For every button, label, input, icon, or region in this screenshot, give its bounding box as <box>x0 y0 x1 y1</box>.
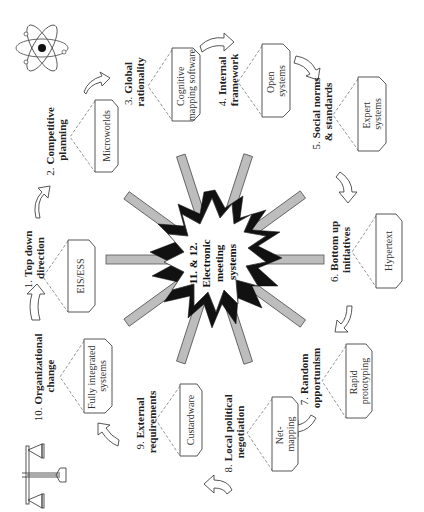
box-text-1: Cognitive <box>175 66 186 106</box>
box-text-2: systems <box>276 65 287 97</box>
label-line-2: negotiation <box>234 406 246 459</box>
node-number: 4. <box>216 98 228 107</box>
box-text-1: Open <box>265 71 276 93</box>
svg-text:6.Bottom up initiatives: 6.Bottom up initiatives <box>328 218 352 282</box>
svg-text:1.Top down direction: 1.Top down direction <box>22 228 46 288</box>
box-text-2: systems <box>97 360 108 392</box>
label-line-1: Global <box>122 62 134 94</box>
node-6-bottom-up-initiatives: Hypertext 6.Bottom up initiatives <box>328 214 402 288</box>
box-text-2: prototyping <box>359 358 370 405</box>
node-4-internal-framework: Open systems 4.Internal framework <box>216 44 290 117</box>
center-line-4: systems <box>226 243 238 280</box>
svg-text:9.External requirements: 9.External requirements <box>134 390 158 453</box>
box-text-1: Rapid <box>348 370 359 394</box>
node-number: 6. <box>328 273 340 282</box>
svg-text:8.Local political negoti: 8.Local political negotiation <box>222 392 246 473</box>
diagram-canvas: 11. & 12. Electronic meeting systems <box>0 0 424 512</box>
svg-text:5.Social norms & standar: 5.Social norms & standards <box>310 75 334 150</box>
node-number: 7. <box>298 397 310 406</box>
node-3-global-rationality: Cognitive mapping software 3.Global rati… <box>122 48 200 121</box>
box-text: EIS/ESS <box>75 258 86 293</box>
label-line-2: initiatives <box>340 226 352 273</box>
svg-text:11. & 12. Electronic: 11. & 12. Electronic meeting systems <box>187 237 238 288</box>
svg-text:4.Internal framework: 4.Internal framework <box>216 53 240 106</box>
center-starburst: 11. & 12. Electronic meeting systems <box>106 154 324 364</box>
label-line-1: Organizational <box>32 334 44 405</box>
box-text-2: mapping <box>285 417 296 452</box>
svg-text:3.Global rationality: 3.Global rationality <box>122 57 146 107</box>
atom-icon <box>16 21 68 75</box>
label-line-1: Random <box>298 354 310 394</box>
box-text: Custardware <box>185 394 196 445</box>
label-line-2: & standards <box>322 82 334 141</box>
arrow-8-to-9 <box>204 475 232 494</box>
center-line-3: meeting <box>213 244 225 282</box>
arrow-3-to-4 <box>200 33 234 52</box>
node-number: 3. <box>122 96 134 105</box>
arrow-5-to-6 <box>336 172 357 203</box>
node-5-social-norms-standards: Expert systems 5.Social norms & standard… <box>310 75 386 151</box>
node-number: 9. <box>134 441 146 450</box>
label-line-1: Bottom up <box>328 221 340 271</box>
svg-text:EIS/ESS: EIS/ESS <box>75 258 86 293</box>
center-line-1: 11. & 12. <box>187 242 199 284</box>
node-10-organizational-change: Fully integrated systems 10.Organization… <box>32 331 112 421</box>
svg-text:10.Organizational change: 10.Organizational change <box>32 331 56 421</box>
center-line-2: Electronic <box>200 239 212 287</box>
box-text-2: systems <box>372 98 383 130</box>
node-8-local-political-negotiation: Net- mapping 8.Local political negotiati… <box>222 392 298 473</box>
svg-text:Microworlds: Microworlds <box>101 110 112 162</box>
label-line-2: opportunism <box>310 348 322 409</box>
label-line-2: direction <box>34 237 46 279</box>
node-number: 5. <box>310 141 322 150</box>
node-7-random-opportunism: Rapid prototyping 7.Random opportunism <box>298 344 372 418</box>
scales-of-justice-icon <box>22 444 66 508</box>
svg-text:2.Competitive planning: 2.Competitive planning <box>44 104 68 175</box>
arrow-10-to-1 <box>27 284 45 320</box>
node-number: 1. <box>22 280 34 289</box>
box-text-1: Net- <box>274 426 285 444</box>
box-text-2: mapping software <box>186 48 197 120</box>
label-line-1: Competitive <box>44 107 56 165</box>
svg-text:Hypertext: Hypertext <box>383 231 394 271</box>
label-line-1: External <box>134 397 146 438</box>
arrow-6-to-7 <box>335 306 352 332</box>
svg-text:Custardware: Custardware <box>185 394 196 445</box>
svg-text:Open systems: Open systems <box>265 65 287 97</box>
box-text: Hypertext <box>383 231 394 271</box>
label-line-1: Social norms <box>310 77 322 139</box>
label-line-2: planning <box>56 119 68 161</box>
box-text-1: Fully integrated <box>86 345 97 409</box>
arrow-2-to-3 <box>84 72 110 94</box>
svg-text:Expert systems: Expert systems <box>361 98 383 130</box>
label-line-2: rationality <box>134 57 146 107</box>
box-text: Microworlds <box>101 110 112 162</box>
label-line-2: framework <box>228 53 240 106</box>
arrow-1-to-2 <box>35 186 50 218</box>
svg-text:7.Random opportunism: 7.Random opportunism <box>298 348 322 409</box>
label-line-2: change <box>44 359 56 392</box>
box-text-1: Expert <box>361 102 372 129</box>
node-2-competitive-planning: Microworlds 2.Competitive planning <box>44 100 118 176</box>
node-number: 2. <box>44 167 56 176</box>
node-number: 10. <box>32 407 44 421</box>
node-9-external-requirements: Custardware 9.External requirements <box>134 384 202 456</box>
label-line-1: Internal <box>216 57 228 96</box>
label-line-1: Top down <box>22 231 34 277</box>
label-line-2: requirements <box>146 390 158 453</box>
node-number: 8. <box>222 464 234 473</box>
label-line-1: Local political <box>222 394 234 461</box>
arrow-9-to-10 <box>98 423 119 446</box>
